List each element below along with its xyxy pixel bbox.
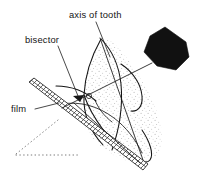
bisector-leader bbox=[58, 46, 80, 101]
construction-dotted-diagonal bbox=[16, 120, 58, 154]
bisector-label: bisector bbox=[25, 34, 59, 45]
diagram-canvas: axis of tooth bisector film bbox=[0, 0, 198, 187]
film-label: film bbox=[11, 103, 26, 114]
bisecting-angle-diagram: axis of tooth bisector film bbox=[0, 0, 198, 187]
axis-of-tooth-label: axis of tooth bbox=[69, 9, 122, 20]
stipple-fill bbox=[0, 0, 198, 187]
film-leader bbox=[35, 103, 59, 109]
stipple-shading bbox=[0, 0, 198, 187]
